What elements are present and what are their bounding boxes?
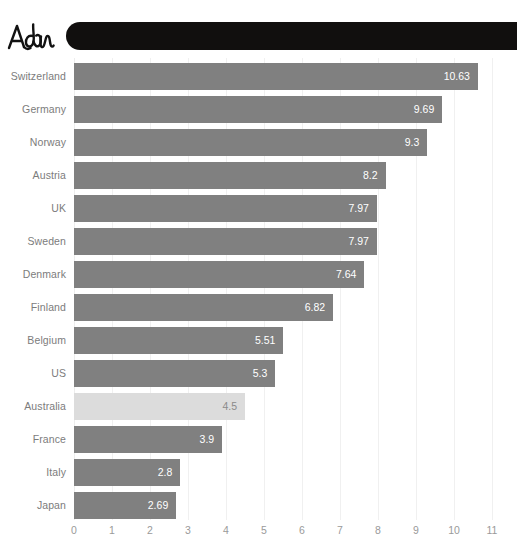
bar-row[interactable]: Germany9.69 [0,93,517,126]
bar-value-label: 2.8 [140,459,172,486]
bar-value-label: 5.51 [243,327,275,354]
category-label-switzerland: Switzerland [0,60,66,93]
bar-value-label: 7.97 [337,195,369,222]
bar-row[interactable]: Austria8.2 [0,159,517,192]
category-label-norway: Norway [0,126,66,159]
bar-value-label: 10.63 [438,63,470,90]
bar-chart: Switzerland10.63Germany9.69Norway9.3Aust… [0,0,517,557]
bar-row[interactable]: US5.3 [0,357,517,390]
bar-value-label: 5.3 [235,360,267,387]
bar-value-label: 8.2 [346,162,378,189]
bar-value-label: 7.97 [337,228,369,255]
bar-row[interactable]: Australia4.5 [0,390,517,423]
bar-denmark[interactable] [74,261,364,288]
bar-row[interactable]: Sweden7.97 [0,225,517,258]
bar-norway[interactable] [74,129,427,156]
category-label-belgium: Belgium [0,324,66,357]
category-label-germany: Germany [0,93,66,126]
bar-switzerland[interactable] [74,63,478,90]
bar-row[interactable]: Finland6.82 [0,291,517,324]
bar-row[interactable]: Denmark7.64 [0,258,517,291]
category-label-austria: Austria [0,159,66,192]
category-label-japan: Japan [0,489,66,522]
x-tick-label-11: 11 [477,524,507,536]
bar-value-label: 4.5 [205,393,237,420]
bar-germany[interactable] [74,96,442,123]
x-tick-label-8: 8 [363,524,393,536]
x-tick-label-0: 0 [59,524,89,536]
bar-value-label: 6.82 [293,294,325,321]
x-tick-label-6: 6 [287,524,317,536]
x-tick-label-7: 7 [325,524,355,536]
category-label-finland: Finland [0,291,66,324]
x-tick-label-5: 5 [249,524,279,536]
bar-uk[interactable] [74,195,377,222]
category-label-denmark: Denmark [0,258,66,291]
bar-series: Switzerland10.63Germany9.69Norway9.3Aust… [0,0,517,520]
bar-row[interactable]: UK7.97 [0,192,517,225]
bar-row[interactable]: Norway9.3 [0,126,517,159]
redaction-bar [66,22,517,50]
category-label-france: France [0,423,66,456]
bar-row[interactable]: Belgium5.51 [0,324,517,357]
x-tick-label-10: 10 [439,524,469,536]
x-tick-label-2: 2 [135,524,165,536]
category-label-uk: UK [0,192,66,225]
bar-row[interactable]: Japan2.69 [0,489,517,522]
bar-sweden[interactable] [74,228,377,255]
bar-value-label: 9.69 [402,96,434,123]
bar-value-label: 7.64 [324,261,356,288]
bar-value-label: 9.3 [387,129,419,156]
category-label-italy: Italy [0,456,66,489]
category-label-australia: Australia [0,390,66,423]
x-tick-label-3: 3 [173,524,203,536]
bar-row[interactable]: France3.9 [0,423,517,456]
category-label-us: US [0,357,66,390]
category-label-sweden: Sweden [0,225,66,258]
x-axis: 01234567891011 [0,524,517,548]
x-tick-label-1: 1 [97,524,127,536]
bar-row[interactable]: Italy2.8 [0,456,517,489]
x-tick-label-4: 4 [211,524,241,536]
bar-value-label: 3.9 [182,426,214,453]
chart-page: Switzerland10.63Germany9.69Norway9.3Aust… [0,0,517,557]
bar-austria[interactable] [74,162,386,189]
x-tick-label-9: 9 [401,524,431,536]
bar-row[interactable]: Switzerland10.63 [0,60,517,93]
bar-value-label: 2.69 [136,492,168,519]
